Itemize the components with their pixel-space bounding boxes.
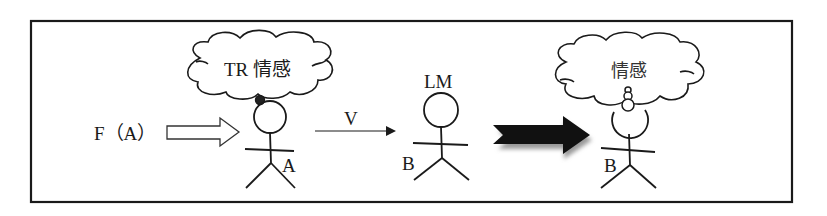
actor-b-label-before: B [402, 153, 415, 174]
actor-b-label-after: B [604, 155, 617, 176]
stick-figure-b-before [413, 93, 469, 180]
result-arrow-icon [493, 116, 592, 159]
force-label: F（A） [94, 123, 156, 144]
verb-label: V [344, 108, 358, 129]
stick-figure-b-after [601, 110, 656, 188]
emotion-transfer-diagram: TR 情感 F（A） A V LM B 情感 [0, 0, 827, 216]
hollow-arrow-icon [167, 118, 239, 146]
role-label-lm: LM [424, 71, 453, 92]
actor-a-label: A [282, 155, 296, 176]
thought-label-b: 情感 [611, 60, 647, 81]
thought-label-a: TR 情感 [224, 59, 291, 80]
